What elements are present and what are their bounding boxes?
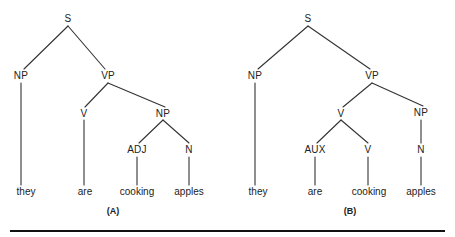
- terminal-word: cooking: [352, 187, 386, 197]
- tree-node-n: N: [185, 145, 192, 155]
- tree-node-adj: ADJ: [127, 145, 147, 155]
- tree-node-np: NP: [14, 71, 28, 81]
- tree-branch: [343, 83, 372, 107]
- tree-node-n: N: [417, 145, 424, 155]
- syntax-tree-figure: SNPVPVNPADJNtheyarecookingapples(A)SNPVP…: [0, 0, 455, 237]
- tree-branch-lines: [0, 0, 455, 237]
- tree-caption: (B): [344, 207, 357, 216]
- tree-branch: [163, 120, 189, 143]
- tree-node-v: V: [338, 109, 345, 119]
- terminal-word: apples: [174, 187, 203, 197]
- tree-node-s: S: [65, 14, 72, 24]
- tree-branch: [24, 26, 68, 69]
- tree-node-np: NP: [248, 71, 262, 81]
- tree-node-s: S: [305, 14, 312, 24]
- tree-branch: [108, 83, 165, 107]
- terminal-word: are: [308, 187, 322, 197]
- tree-node-np: NP: [414, 108, 428, 118]
- tree-node-np: NP: [156, 109, 170, 119]
- bottom-divider-rule: [10, 230, 445, 232]
- tree-node-v: V: [81, 109, 88, 119]
- terminal-word: cooking: [120, 187, 154, 197]
- terminal-word: apples: [406, 187, 435, 197]
- terminal-word: are: [78, 187, 92, 197]
- tree-branch: [139, 120, 163, 143]
- tree-node-v: V: [365, 145, 372, 155]
- terminal-word: they: [17, 187, 36, 197]
- tree-branch: [317, 120, 341, 143]
- tree-branch: [372, 83, 423, 106]
- tree-branch: [308, 26, 370, 69]
- tree-caption: (A): [107, 207, 120, 216]
- tree-branch: [68, 26, 105, 69]
- tree-node-vp: VP: [101, 71, 115, 81]
- tree-node-aux: AUX: [304, 145, 325, 155]
- terminal-word: they: [249, 187, 268, 197]
- tree-branch: [85, 83, 108, 107]
- tree-node-vp: VP: [365, 71, 379, 81]
- tree-branch: [341, 120, 368, 143]
- tree-branch: [258, 26, 308, 69]
